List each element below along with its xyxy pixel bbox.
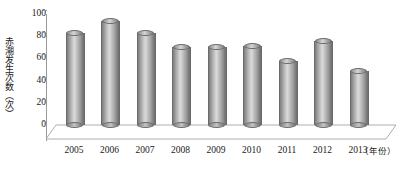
y-axis-tick-mark (43, 77, 47, 78)
bar-top-ellipse (315, 38, 332, 44)
bar-base-ellipse (350, 122, 367, 128)
bar (243, 46, 262, 125)
x-axis-tick-label: 2005 (54, 146, 94, 156)
y-axis-tick-mark (43, 32, 47, 33)
bar (279, 61, 298, 125)
y-axis-tick-mark (43, 99, 47, 100)
x-axis-tick-label: 2012 (303, 146, 343, 156)
x-axis-tick-label: 2009 (196, 146, 236, 156)
bar-base-ellipse (66, 122, 83, 128)
x-axis-tick-label: 2011 (267, 146, 307, 156)
x-axis-tick-label: 2006 (90, 146, 130, 156)
bar-top-ellipse (102, 18, 119, 24)
x-axis-tick-label: 2008 (161, 146, 201, 156)
y-axis-tick-labels: 020406080100 (17, 0, 46, 174)
y-axis-tick-mark (43, 54, 47, 55)
bar-base-ellipse (315, 122, 332, 128)
bar-base-ellipse (102, 122, 119, 128)
bar (350, 71, 369, 125)
bar-top-ellipse (279, 58, 296, 64)
bar-base-ellipse (279, 122, 296, 128)
bar-series (46, 10, 396, 145)
y-axis-tick-mark (43, 121, 47, 122)
x-axis-tick-labels: 200520062007200820092010201120122013 (46, 146, 413, 162)
bar-base-ellipse (137, 122, 154, 128)
bar (314, 41, 333, 125)
bar (208, 47, 227, 125)
bar-top-ellipse (244, 43, 261, 49)
bar-top-ellipse (66, 30, 83, 36)
bar (172, 47, 191, 125)
x-axis-title: （年份） (360, 147, 396, 156)
bar (66, 33, 85, 125)
bar-top-ellipse (350, 68, 367, 74)
bar-base-ellipse (173, 122, 190, 128)
bar-top-ellipse (208, 44, 225, 50)
x-axis-tick-label: 2007 (125, 146, 165, 156)
y-axis-tick-mark (43, 10, 47, 11)
bar-top-ellipse (173, 44, 190, 50)
bar-top-ellipse (137, 30, 154, 36)
bar-base-ellipse (244, 122, 261, 128)
bar-base-ellipse (208, 122, 225, 128)
bar (137, 33, 156, 125)
x-axis-tick-label: 2010 (232, 146, 272, 156)
bar-chart: 赤潮发生次数（次） 020406080100 20052006200720082… (0, 0, 413, 174)
bar (101, 21, 120, 125)
plot-area (46, 10, 396, 145)
y-axis-title: 赤潮发生次数（次） (1, 14, 17, 140)
